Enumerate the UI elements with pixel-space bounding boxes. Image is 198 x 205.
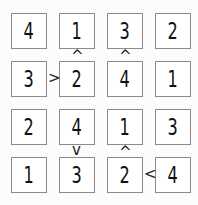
cell-value: 2 <box>72 66 82 92</box>
cell-r1c2[interactable]: 4 <box>107 61 143 97</box>
cell-value: 4 <box>168 162 178 188</box>
cell-r0c1[interactable]: 1 <box>59 13 95 49</box>
cell-r0c3[interactable]: 2 <box>155 13 191 49</box>
futoshiki-grid: 4 1 3 2 3 2 4 1 2 4 1 3 1 3 2 4 ^ ^ > v … <box>0 0 198 205</box>
cell-r3c3[interactable]: 4 <box>155 157 191 193</box>
less-than-up-sign-r0c1: ^ <box>71 49 84 64</box>
cell-r3c1[interactable]: 3 <box>59 157 95 193</box>
cell-value: 4 <box>24 18 34 44</box>
greater-than-sign-r1c0: > <box>48 71 61 86</box>
cell-value: 1 <box>72 18 82 44</box>
cell-r1c1[interactable]: 2 <box>59 61 95 97</box>
cell-value: 4 <box>72 114 82 140</box>
greater-than-down-sign-r2c1: v <box>72 143 81 158</box>
cell-value: 3 <box>168 114 178 140</box>
cell-r3c0[interactable]: 1 <box>11 157 47 193</box>
cell-r2c3[interactable]: 3 <box>155 109 191 145</box>
cell-value: 3 <box>120 18 130 44</box>
cell-r2c0[interactable]: 2 <box>11 109 47 145</box>
cell-value: 2 <box>168 18 178 44</box>
cell-value: 1 <box>120 114 130 140</box>
cell-r0c0[interactable]: 4 <box>11 13 47 49</box>
cell-r2c1[interactable]: 4 <box>59 109 95 145</box>
cell-value: 1 <box>24 162 34 188</box>
less-than-up-sign-r2c2: ^ <box>119 145 132 160</box>
cell-value: 1 <box>168 66 178 92</box>
cell-value: 4 <box>120 66 130 92</box>
cell-value: 2 <box>24 114 34 140</box>
cell-value: 3 <box>24 66 34 92</box>
less-than-up-sign-r0c2: ^ <box>119 49 132 64</box>
cell-r3c2[interactable]: 2 <box>107 157 143 193</box>
cell-r1c0[interactable]: 3 <box>11 61 47 97</box>
cell-r0c2[interactable]: 3 <box>107 13 143 49</box>
cell-value: 3 <box>72 162 82 188</box>
cell-value: 2 <box>120 162 130 188</box>
cell-r2c2[interactable]: 1 <box>107 109 143 145</box>
cell-r1c3[interactable]: 1 <box>155 61 191 97</box>
less-than-sign-r3c2: < <box>144 167 157 182</box>
